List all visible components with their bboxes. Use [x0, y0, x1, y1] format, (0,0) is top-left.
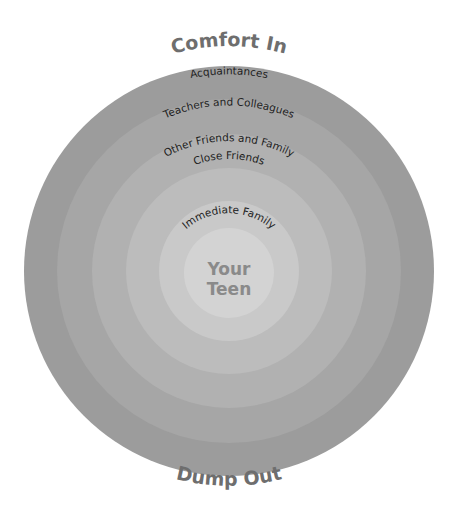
comfort-in-dump-out-diagram: Comfort In Acquaintances Teachers and Co… — [0, 0, 458, 511]
center-label-line1: Your — [207, 259, 252, 279]
center-label-line2: Teen — [207, 279, 252, 299]
top-title-text: Comfort In — [168, 28, 289, 58]
top-title: Comfort In — [168, 28, 289, 58]
